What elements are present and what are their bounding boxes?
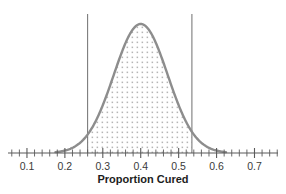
- x-axis-title: Proportion Cured: [0, 173, 286, 185]
- x-axis-tick-label: 0.6: [200, 160, 234, 172]
- x-axis-tick-label: 0.7: [237, 160, 271, 172]
- x-axis-tick-label: 0.4: [124, 160, 158, 172]
- x-axis-tick-label: 0.3: [86, 160, 120, 172]
- x-axis-tick-label: 0.2: [48, 160, 82, 172]
- chart-figure: 0.10.20.30.40.50.60.7 Proportion Cured: [0, 0, 286, 194]
- x-axis-tick-label: 0.5: [162, 160, 196, 172]
- x-axis-tick-label: 0.1: [10, 160, 44, 172]
- shaded-region: [88, 18, 192, 153]
